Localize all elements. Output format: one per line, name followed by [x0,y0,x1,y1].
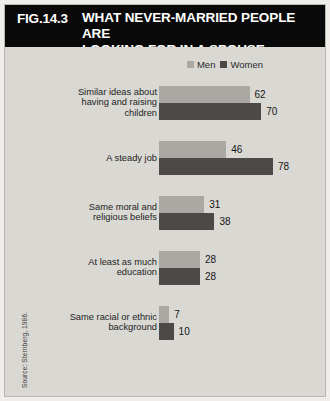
bar-women[interactable] [159,158,273,175]
figure-source: Source: Sternberg, 1986. [21,312,28,388]
chart-group-label: At least as much education [37,257,157,279]
chart-group: Same racial or ethnic background710 [5,295,325,350]
chart-group-bars: 6270 [159,86,277,120]
bar-women[interactable] [159,103,261,120]
bar-row-women: 28 [159,268,216,285]
chart-group-label: Same racial or ethnic background [37,312,157,334]
bar-women[interactable] [159,213,214,230]
chart-groups: Similar ideas about having and raising c… [5,75,325,350]
chart-group-label: Similar ideas about having and raising c… [37,86,157,118]
chart-group-bars: 2828 [159,251,216,285]
bar-value-men: 62 [250,89,266,100]
legend-swatch-men-icon [187,61,194,68]
bar-row-men: 28 [159,251,216,268]
bar-men[interactable] [159,141,226,158]
chart-group: A steady job4678 [5,130,325,185]
bar-men[interactable] [159,196,204,213]
chart-group: At least as much education2828 [5,240,325,295]
chart-group-label: Same moral and religious beliefs [37,202,157,224]
bar-value-men: 46 [226,144,242,155]
legend-label-men: Men [197,59,215,70]
chart-plot-area: Men Women Similar ideas about having and… [5,47,325,396]
bar-value-men: 7 [169,309,180,320]
bar-value-women: 78 [273,161,289,172]
legend-entry-women: Women [220,59,263,70]
legend-label-women: Women [230,59,263,70]
bar-row-women: 10 [159,323,190,340]
bar-value-women: 10 [174,326,190,337]
legend-entry-men: Men [187,59,215,70]
bar-men[interactable] [159,251,200,268]
bar-men[interactable] [159,86,250,103]
chart-group-bars: 4678 [159,141,289,175]
legend-swatch-women-icon [220,61,227,68]
bar-value-men: 28 [200,254,216,265]
bar-row-women: 78 [159,158,289,175]
bar-value-women: 28 [200,271,216,282]
bar-row-men: 46 [159,141,289,158]
figure-number: FIG.14.3 [5,10,68,26]
chart-group-bars: 3138 [159,196,231,230]
bar-value-women: 70 [261,106,277,117]
bar-row-men: 62 [159,86,277,103]
bar-row-men: 7 [159,306,190,323]
chart-group: Same moral and religious beliefs3138 [5,185,325,240]
chart-legend: Men Women [187,59,263,70]
bar-women[interactable] [159,268,200,285]
bar-value-men: 31 [204,199,220,210]
figure-container: FIG.14.3 WHAT NEVER-MARRIED PEOPLE ARE L… [0,0,330,401]
figure-header: FIG.14.3 WHAT NEVER-MARRIED PEOPLE ARE L… [5,5,325,47]
chart-group-label: A steady job [37,152,157,163]
bar-row-men: 31 [159,196,231,213]
bar-women[interactable] [159,323,174,340]
bar-value-women: 38 [214,216,230,227]
bar-men[interactable] [159,306,169,323]
bar-row-women: 38 [159,213,231,230]
chart-group: Similar ideas about having and raising c… [5,75,325,130]
chart-group-bars: 710 [159,306,190,340]
bar-row-women: 70 [159,103,277,120]
